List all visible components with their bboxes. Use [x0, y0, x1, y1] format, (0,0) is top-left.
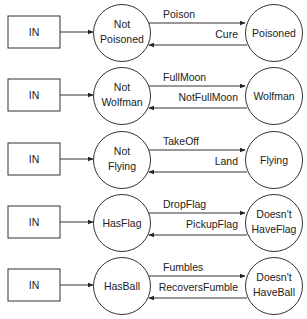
forward-transition-label: Fumbles [163, 261, 203, 273]
input-label: IN [29, 26, 40, 38]
backward-transition-label: NotFullMoon [178, 91, 238, 103]
state-a-label: Not [114, 145, 130, 157]
state-a-label: Poisoned [100, 33, 144, 45]
forward-transition-label: Poison [163, 8, 195, 20]
state-machine-row: INNotFlyingFlyingTakeOffLand [8, 132, 303, 189]
state-b-label: Flying [260, 154, 288, 166]
state-machine-row: INNotWolfmanWolfmanFullMoonNotFullMoon [8, 68, 303, 125]
backward-transition-label: PickupFlag [186, 218, 238, 230]
state-a-label: HasBall [104, 280, 140, 292]
backward-transition-label: Land [215, 155, 239, 167]
state-b-label: HaveFlag [252, 223, 297, 235]
state-machine-row: INHasBallDoesn'tHaveBallFumblesRecoversF… [8, 258, 303, 315]
state-b-label: HaveBall [253, 286, 295, 298]
state-machine-row: INNotPoisonedPoisonedPoisonCure [8, 5, 303, 62]
state-a-label: HasFlag [102, 217, 141, 229]
input-label: IN [29, 279, 40, 291]
forward-transition-label: FullMoon [163, 71, 206, 83]
input-label: IN [29, 153, 40, 165]
backward-transition-label: RecoversFumble [159, 281, 239, 293]
state-b-label: Doesn't [256, 208, 291, 220]
state-a-label: Not [114, 81, 130, 93]
input-label: IN [29, 216, 40, 228]
forward-transition-label: TakeOff [163, 135, 199, 147]
state-a-label: Flying [108, 160, 136, 172]
state-a-label: Wolfman [101, 96, 142, 108]
state-b-label: Poisoned [252, 27, 296, 39]
state-machine-row: INHasFlagDoesn'tHaveFlagDropFlagPickupFl… [8, 195, 303, 252]
state-b-label: Doesn't [256, 271, 291, 283]
backward-transition-label: Cure [215, 28, 238, 40]
forward-transition-label: DropFlag [163, 198, 206, 210]
input-label: IN [29, 89, 40, 101]
state-diagram: INNotPoisonedPoisonedPoisonCureINNotWolf… [0, 0, 307, 319]
state-b-label: Wolfman [253, 90, 294, 102]
state-a-label: Not [114, 18, 130, 30]
